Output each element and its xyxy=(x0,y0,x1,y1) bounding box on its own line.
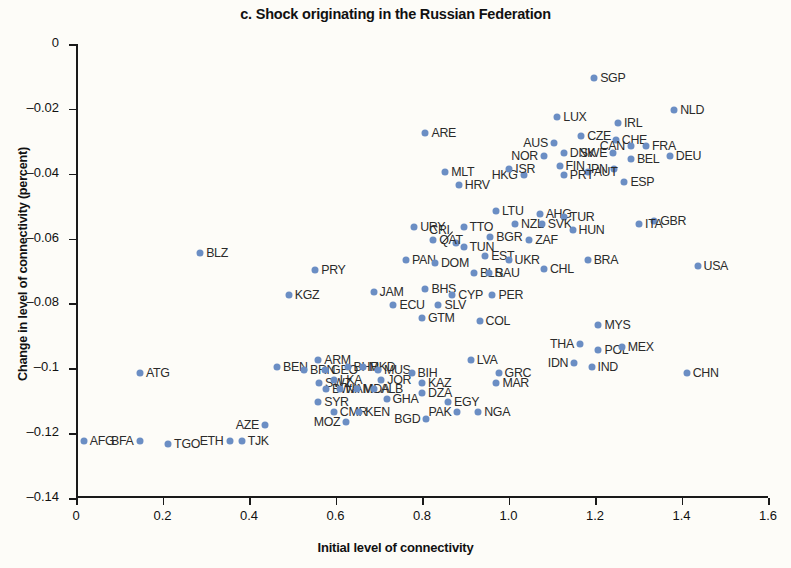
data-point[interactable] xyxy=(576,340,583,347)
data-point[interactable] xyxy=(460,224,467,231)
data-point-label: KEN xyxy=(365,405,390,419)
data-point[interactable] xyxy=(506,165,513,172)
data-point[interactable] xyxy=(285,292,292,299)
data-point[interactable] xyxy=(431,259,438,266)
y-tick-label: –0.08 xyxy=(26,294,59,309)
data-point[interactable] xyxy=(165,441,172,448)
data-point[interactable] xyxy=(476,318,483,325)
x-tick: 0.2 xyxy=(163,498,165,505)
data-point[interactable] xyxy=(571,360,578,367)
data-point[interactable] xyxy=(390,302,397,309)
data-point[interactable] xyxy=(322,386,329,393)
data-point[interactable] xyxy=(595,347,602,354)
data-point[interactable] xyxy=(486,269,493,276)
data-point[interactable] xyxy=(540,152,547,159)
data-point[interactable] xyxy=(595,321,602,328)
data-point-label: GTM xyxy=(428,311,455,325)
data-point[interactable] xyxy=(419,389,426,396)
data-point[interactable] xyxy=(683,370,690,377)
data-point[interactable] xyxy=(423,415,430,422)
data-point[interactable] xyxy=(262,422,269,429)
data-point[interactable] xyxy=(419,315,426,322)
data-point[interactable] xyxy=(584,256,591,263)
data-point[interactable] xyxy=(402,256,409,263)
data-point[interactable] xyxy=(454,409,461,416)
data-point[interactable] xyxy=(238,438,245,445)
data-point[interactable] xyxy=(442,169,449,176)
data-point[interactable] xyxy=(591,75,598,82)
data-point[interactable] xyxy=(197,249,204,256)
data-point[interactable] xyxy=(550,139,557,146)
data-point[interactable] xyxy=(460,243,467,250)
data-point[interactable] xyxy=(588,363,595,370)
scatter-chart-figure: c. Shock originating in the Russian Fede… xyxy=(0,0,791,568)
data-point[interactable] xyxy=(560,149,567,156)
data-point[interactable] xyxy=(489,292,496,299)
data-point[interactable] xyxy=(374,366,381,373)
data-point[interactable] xyxy=(560,172,567,179)
data-point[interactable] xyxy=(80,438,87,445)
data-point[interactable] xyxy=(359,363,366,370)
data-point[interactable] xyxy=(610,149,617,156)
data-point[interactable] xyxy=(371,386,378,393)
data-point[interactable] xyxy=(470,269,477,276)
data-point[interactable] xyxy=(492,208,499,215)
data-point[interactable] xyxy=(136,438,143,445)
data-point[interactable] xyxy=(430,237,437,244)
data-point[interactable] xyxy=(526,237,533,244)
data-point[interactable] xyxy=(419,379,426,386)
data-point[interactable] xyxy=(666,152,673,159)
data-point[interactable] xyxy=(300,366,307,373)
data-point-label: CHL xyxy=(550,262,574,276)
data-point[interactable] xyxy=(370,289,377,296)
data-point[interactable] xyxy=(322,366,329,373)
data-point[interactable] xyxy=(554,113,561,120)
data-point-label: TTO xyxy=(470,220,494,234)
data-point[interactable] xyxy=(621,178,628,185)
data-point[interactable] xyxy=(495,370,502,377)
data-point[interactable] xyxy=(455,182,462,189)
data-point[interactable] xyxy=(354,386,361,393)
data-point[interactable] xyxy=(614,120,621,127)
data-point[interactable] xyxy=(569,227,576,234)
data-point[interactable] xyxy=(482,253,489,260)
x-tick: 1.0 xyxy=(509,498,511,505)
data-point[interactable] xyxy=(475,409,482,416)
data-point-label: HRV xyxy=(465,178,490,192)
data-point[interactable] xyxy=(137,370,144,377)
data-point[interactable] xyxy=(316,379,323,386)
data-point-label: SAU xyxy=(495,266,520,280)
data-point[interactable] xyxy=(336,386,343,393)
data-point[interactable] xyxy=(643,143,650,150)
data-point[interactable] xyxy=(344,363,351,370)
data-point[interactable] xyxy=(505,256,512,263)
data-point[interactable] xyxy=(618,344,625,351)
x-tick-label: 1.4 xyxy=(672,508,690,523)
x-tick-label: 1.2 xyxy=(586,508,604,523)
data-point[interactable] xyxy=(540,266,547,273)
data-point-label: ESP xyxy=(630,175,654,189)
data-point[interactable] xyxy=(493,379,500,386)
data-point[interactable] xyxy=(383,396,390,403)
data-point[interactable] xyxy=(343,418,350,425)
data-point-label: LTU xyxy=(502,204,524,218)
data-point[interactable] xyxy=(627,143,634,150)
data-point[interactable] xyxy=(627,156,634,163)
data-point[interactable] xyxy=(356,409,363,416)
data-point[interactable] xyxy=(556,162,563,169)
data-point[interactable] xyxy=(636,220,643,227)
data-point[interactable] xyxy=(511,220,518,227)
data-point[interactable] xyxy=(578,133,585,140)
data-point[interactable] xyxy=(467,357,474,364)
data-point[interactable] xyxy=(671,107,678,114)
data-point[interactable] xyxy=(435,302,442,309)
data-point[interactable] xyxy=(694,263,701,270)
data-point[interactable] xyxy=(411,224,418,231)
data-point[interactable] xyxy=(422,130,429,137)
data-point[interactable] xyxy=(422,285,429,292)
data-point[interactable] xyxy=(315,399,322,406)
data-point[interactable] xyxy=(538,220,545,227)
data-point[interactable] xyxy=(274,363,281,370)
data-point[interactable] xyxy=(312,267,319,274)
data-point[interactable] xyxy=(226,438,233,445)
